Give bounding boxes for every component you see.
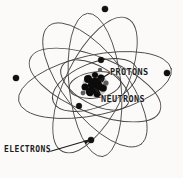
electron-top bbox=[102, 6, 108, 12]
nucleon-6 bbox=[82, 84, 89, 91]
nucleon-10 bbox=[98, 68, 102, 72]
atom-diagram-figure: PROTONS NEUTRONS ELECTRONS bbox=[0, 0, 183, 178]
leader-line-electrons bbox=[48, 140, 89, 152]
electron-left bbox=[13, 75, 19, 81]
label-neutrons: NEUTRONS bbox=[101, 95, 145, 104]
label-electrons: ELECTRONS bbox=[4, 146, 51, 154]
nucleon-8 bbox=[103, 80, 108, 85]
label-protons: PROTONS bbox=[110, 68, 149, 77]
electron-right bbox=[164, 70, 170, 76]
electron-inner-top bbox=[98, 57, 104, 63]
nucleon-1 bbox=[84, 75, 92, 83]
nucleon-7 bbox=[92, 72, 98, 78]
nucleon-9 bbox=[81, 91, 86, 96]
electron-inner-left bbox=[76, 103, 82, 109]
